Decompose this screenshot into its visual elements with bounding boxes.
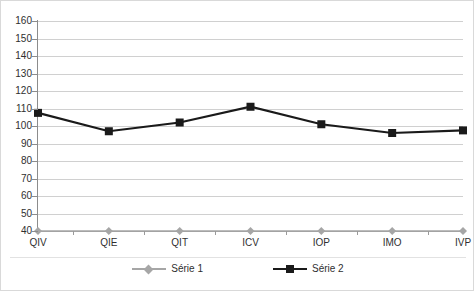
y-tick-mark [32,214,38,215]
legend-divider [10,257,466,258]
y-axis-tick-label: 60 [4,191,32,201]
gridline [38,74,463,75]
y-tick-mark [32,126,38,127]
y-axis-tick-label: 140 [4,51,32,61]
plot-area [38,21,463,231]
legend-key-serie-2 [273,263,307,275]
y-tick-mark [32,91,38,92]
legend-label-serie-2: Série 2 [312,263,344,275]
x-tick-mark [357,231,358,235]
gridline [38,144,463,145]
y-axis-tick-label: 70 [4,174,32,184]
y-axis-tick-label: 80 [4,156,32,166]
gridline [38,161,463,162]
gridline [38,91,463,92]
gridline [38,21,463,22]
y-tick-mark [32,21,38,22]
y-axis-tick-label: 120 [4,86,32,96]
square-marker-icon [286,265,294,273]
y-axis-tick-label: 150 [4,34,32,44]
y-axis-tick-label: 160 [4,16,32,26]
legend-item-serie-2[interactable]: Série 2 [273,263,344,275]
chart-legend: Série 1 Série 2 [1,263,474,275]
y-tick-mark [32,231,38,232]
legend-key-serie-1 [132,263,166,275]
x-tick-mark [73,231,74,235]
y-tick-mark [32,74,38,75]
y-axis-labels: 160150140130120110100908070605040 [1,1,32,291]
legend-item-serie-1[interactable]: Série 1 [132,263,203,275]
x-axis-tick-label: ICV [242,237,259,248]
x-tick-mark [144,231,145,235]
y-axis-tick-label: 110 [4,104,32,114]
x-axis-tick-label: IVP [455,237,471,248]
x-tick-mark [428,231,429,235]
gridline [38,179,463,180]
legend-label-serie-1: Série 1 [171,263,203,275]
x-axis-tick-label: IMO [383,237,402,248]
x-axis-tick-label: QIE [100,237,117,248]
y-axis-tick-label: 100 [4,121,32,131]
y-tick-mark [32,179,38,180]
line-chart: 160150140130120110100908070605040 Série … [0,0,474,291]
gridline [38,126,463,127]
x-axis-tick-label: IOP [313,237,330,248]
x-axis-tick-label: QIV [29,237,46,248]
y-axis-tick-label: 40 [4,226,32,236]
gridline [38,56,463,57]
diamond-marker-icon [144,265,154,275]
y-tick-mark [32,144,38,145]
y-tick-mark [32,56,38,57]
y-tick-mark [32,196,38,197]
y-axis-tick-label: 130 [4,69,32,79]
gridline [38,196,463,197]
y-tick-mark [32,39,38,40]
x-tick-mark [215,231,216,235]
gridline [38,214,463,215]
x-tick-mark [286,231,287,235]
y-tick-mark [32,109,38,110]
gridline [38,109,463,110]
y-axis-tick-label: 90 [4,139,32,149]
y-tick-mark [32,161,38,162]
gridline [38,39,463,40]
y-axis-tick-label: 50 [4,209,32,219]
gridline [38,231,463,232]
x-axis-tick-label: QIT [171,237,188,248]
